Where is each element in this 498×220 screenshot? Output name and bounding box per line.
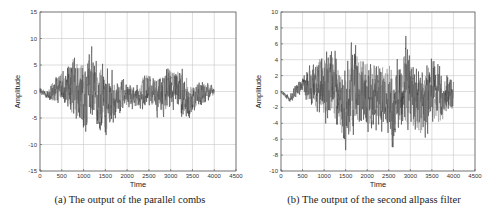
svg-text:1000: 1000 [317,173,331,179]
svg-text:4500: 4500 [468,173,482,179]
svg-text:5: 5 [34,62,38,68]
x-axis-label: Time [370,180,386,189]
figure-panel-a: 050010001500200025003000350040004500-15-… [0,0,249,220]
svg-text:4000: 4000 [447,173,461,179]
svg-text:4500: 4500 [229,173,243,179]
svg-text:4000: 4000 [208,173,222,179]
svg-text:3000: 3000 [164,173,178,179]
svg-text:1500: 1500 [99,173,113,179]
chart-second-allpass: 050010001500200025003000350040004500-10-… [249,0,498,192]
svg-text:8: 8 [275,25,279,31]
svg-text:2500: 2500 [142,173,156,179]
svg-text:-10: -10 [28,142,37,148]
svg-text:-2: -2 [273,104,279,110]
svg-text:15: 15 [30,9,37,15]
y-tick-labels: -10-8-6-4-20246810 [269,9,278,174]
x-tick-labels: 050010001500200025003000350040004500 [38,173,243,179]
svg-text:1000: 1000 [77,173,91,179]
svg-text:3500: 3500 [425,173,439,179]
svg-text:0: 0 [38,173,42,179]
chart-parallel-combs: 050010001500200025003000350040004500-15-… [0,0,249,192]
svg-text:1500: 1500 [339,173,353,179]
svg-text:0: 0 [34,89,38,95]
svg-text:-5: -5 [32,115,38,121]
caption-b: (b) The output of the second allpass fil… [259,194,489,205]
svg-text:2000: 2000 [120,173,134,179]
svg-text:10: 10 [30,36,37,42]
svg-text:3500: 3500 [186,173,200,179]
x-axis-label: Time [130,180,146,189]
y-axis-label: Amplitude [13,75,22,108]
y-tick-labels: -15-10-5051015 [28,9,37,174]
svg-text:3000: 3000 [404,173,418,179]
svg-text:2500: 2500 [382,173,396,179]
svg-text:0: 0 [279,173,283,179]
svg-text:2000: 2000 [361,173,375,179]
svg-text:-15: -15 [28,168,37,174]
svg-text:4: 4 [275,57,279,63]
svg-text:0: 0 [275,89,279,95]
svg-text:-10: -10 [269,168,278,174]
svg-text:-6: -6 [273,136,279,142]
caption-a: (a) The output of the parallel combs [20,194,240,205]
svg-text:10: 10 [271,9,278,15]
svg-text:-4: -4 [273,120,279,126]
svg-text:500: 500 [298,173,309,179]
svg-text:-8: -8 [273,152,279,158]
svg-text:6: 6 [275,41,279,47]
svg-text:500: 500 [57,173,68,179]
svg-text:2: 2 [275,73,279,79]
y-axis-label: Amplitude [254,75,263,108]
x-tick-labels: 050010001500200025003000350040004500 [279,173,482,179]
figure-panel-b: 050010001500200025003000350040004500-10-… [249,0,498,220]
